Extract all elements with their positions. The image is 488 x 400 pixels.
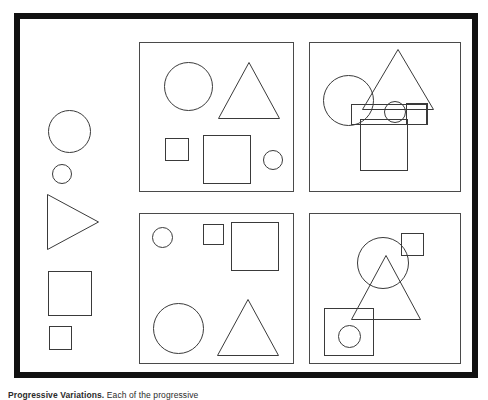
large-circle: [153, 303, 204, 354]
small-square: [401, 233, 424, 256]
large-square: [231, 222, 279, 271]
large-square: [360, 119, 408, 171]
panel-bottom-right: [309, 213, 461, 364]
large-triangle: [217, 299, 279, 356]
small-circle: [152, 227, 173, 248]
small-square: [165, 138, 189, 161]
panel-bottom-left: [139, 213, 294, 364]
key-large-circle: [48, 110, 91, 153]
key-small-circle: [52, 164, 72, 184]
figure-caption: Progressive Variations. Each of the prog…: [8, 390, 408, 400]
figure-root: Progressive Variations. Each of the prog…: [0, 0, 488, 400]
small-circle: [338, 325, 361, 348]
small-circle: [263, 150, 283, 170]
frame-mat: [20, 19, 472, 372]
panel-top-left: [139, 42, 294, 192]
small-square: [406, 103, 428, 125]
panel-top-right: [309, 42, 461, 192]
large-triangle: [218, 62, 280, 119]
caption-body: Each of the progressive: [104, 390, 198, 400]
small-square: [203, 224, 224, 245]
outer-frame: [14, 13, 478, 378]
large-circle: [164, 62, 213, 111]
key-small-square: [49, 326, 72, 350]
key-right-triangle: [47, 194, 99, 250]
large-square: [203, 135, 251, 184]
shape-key-column: [20, 42, 125, 364]
caption-title: Progressive Variations.: [8, 390, 104, 400]
key-large-square: [48, 271, 92, 316]
